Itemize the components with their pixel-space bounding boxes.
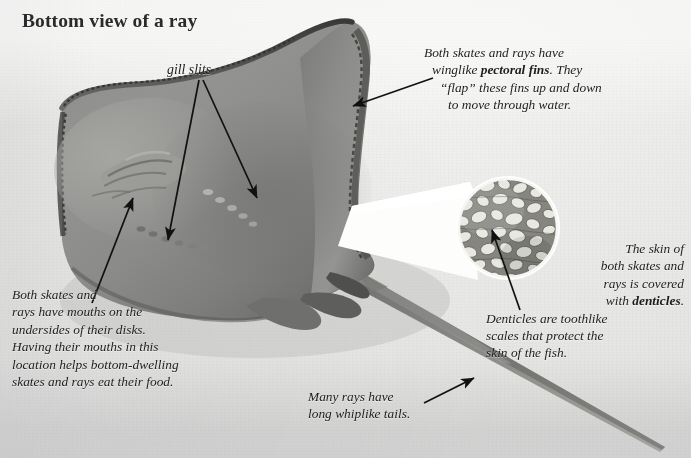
arrow-tail bbox=[424, 378, 474, 403]
callout-line: scales that protect the bbox=[486, 327, 684, 344]
callout-line: winglike pectoral fins. They bbox=[424, 61, 602, 78]
callout-line: location helps bottom-dwelling bbox=[12, 356, 179, 373]
callout-line: skin of the fish. bbox=[486, 344, 684, 361]
callout-line: rays is covered bbox=[486, 275, 684, 292]
gill-slits-label: gill slits bbox=[167, 62, 211, 78]
callout-line: to move through water. bbox=[424, 96, 602, 113]
callout-line: both skates and bbox=[486, 257, 684, 274]
callout-line: Many rays have bbox=[308, 388, 410, 405]
term-pectoral-fins: pectoral fins bbox=[481, 62, 550, 77]
callout-line: The skin of bbox=[486, 240, 684, 257]
denticles-callout: The skin of both skates and rays is cove… bbox=[486, 240, 684, 362]
callout-line: “flap” these fins up and down bbox=[424, 79, 602, 96]
callout-line: Both skates and bbox=[12, 286, 179, 303]
term-denticles: denticles bbox=[632, 293, 680, 308]
callout-line: Denticles are toothlike bbox=[486, 310, 684, 327]
callout-line: skates and rays eat their food. bbox=[12, 373, 179, 390]
callout-line: long whiplike tails. bbox=[308, 405, 410, 422]
callout-line: undersides of their disks. bbox=[12, 321, 179, 338]
callout-line: rays have mouths on the bbox=[12, 303, 179, 320]
ray-disk bbox=[54, 21, 374, 330]
callout-line: Both skates and rays have bbox=[424, 44, 602, 61]
callout-line: Having their mouths in this bbox=[12, 338, 179, 355]
callout-line: with denticles. bbox=[486, 292, 684, 309]
tail-callout: Many rays have long whiplike tails. bbox=[308, 388, 410, 423]
mouth-callout: Both skates and rays have mouths on the … bbox=[12, 286, 179, 390]
figure-page: Bottom view of a ray gill slits Both ska… bbox=[0, 0, 691, 458]
pectoral-fins-callout: Both skates and rays have winglike pecto… bbox=[424, 44, 602, 114]
page-title: Bottom view of a ray bbox=[22, 10, 197, 32]
